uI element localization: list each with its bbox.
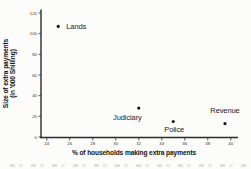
data-point-lands: [57, 25, 60, 28]
x-axis-title: % of households making extra payments: [20, 149, 248, 156]
x-tick-label: 32: [136, 141, 141, 146]
cropped-caption-artifact: [10, 164, 246, 167]
data-point-label-judiciary: Judiciary: [113, 113, 142, 122]
x-tick-label: 30: [113, 141, 118, 146]
y-tick-label: 80: [32, 52, 37, 57]
scatter-plot-figure: Size of extra payments (in '000 Shilling…: [0, 0, 251, 169]
y-axis-title: Size of extra payments (in '000 Shilling…: [2, 29, 17, 119]
scatter-chart-canvas: 242628303234363840020406080100120LandsJu…: [0, 0, 251, 169]
y-tick-label: 100: [30, 31, 38, 36]
x-tick-label: 26: [67, 141, 72, 146]
data-point-police: [172, 120, 175, 123]
x-tick-label: 28: [90, 141, 95, 146]
x-tick-label: 36: [182, 141, 187, 146]
x-tick-label: 38: [205, 141, 210, 146]
y-axis-title-line2: (in '000 Shilling): [9, 29, 16, 119]
y-tick-label: 40: [32, 93, 37, 98]
data-point-revenue: [223, 122, 226, 125]
data-point-label-revenue: Revenue: [210, 106, 239, 115]
y-tick-label: 0: [35, 135, 38, 140]
x-tick-label: 24: [44, 141, 49, 146]
data-point-label-police: Police: [164, 125, 184, 134]
y-tick-label: 60: [32, 73, 37, 78]
data-point-judiciary: [137, 106, 140, 109]
y-axis-title-line1: Size of extra payments: [2, 29, 9, 119]
y-tick-label: 20: [32, 114, 37, 119]
data-point-label-lands: Lands: [66, 22, 86, 31]
x-tick-label: 34: [159, 141, 164, 146]
y-tick-label: 120: [30, 11, 38, 16]
x-tick-label: 40: [228, 141, 233, 146]
